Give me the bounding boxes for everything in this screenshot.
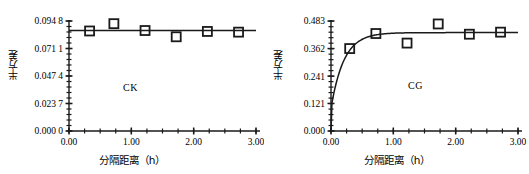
data-point-marker — [403, 39, 412, 48]
y-tick-label: 0.000 — [304, 126, 326, 136]
data-point-marker — [234, 28, 243, 37]
y-tick-label: 0.000 0 — [35, 126, 64, 136]
x-axis-title-cg: 分隔距离（h） — [265, 152, 529, 167]
y-tick-label: 0.483 — [304, 16, 326, 26]
x-tick-label: 2.00 — [447, 137, 464, 147]
data-point-marker — [172, 32, 181, 41]
y-tick-label: 0.047 4 — [35, 71, 64, 81]
chart-panel-ck: 0.000 00.023 70.047 40.071 10.094 80.001… — [0, 0, 264, 174]
series-annotation-cg: CG — [408, 80, 423, 91]
x-tick-label: 0.00 — [323, 137, 340, 147]
y-axis-title-cg: 半方差 — [273, 50, 287, 80]
data-point-marker — [371, 29, 380, 38]
data-point-marker — [465, 30, 474, 39]
x-tick-label: 0.00 — [61, 137, 78, 147]
y-axis-title-ck: 半方差 — [8, 50, 22, 80]
y-tick-label: 0.362 — [304, 44, 326, 54]
y-tick-label: 0.023 7 — [35, 99, 64, 109]
series-annotation-ck: CK — [123, 82, 138, 93]
x-tick-label: 3.00 — [248, 137, 264, 147]
y-tick-label: 0.094 8 — [35, 16, 64, 26]
x-tick-label: 3.00 — [510, 137, 527, 147]
x-axis-title-ck: 分隔距离（h） — [0, 152, 264, 167]
x-tick-label: 1.00 — [385, 137, 402, 147]
y-tick-label: 0.121 — [304, 99, 326, 109]
data-point-marker — [434, 19, 443, 28]
x-tick-label: 1.00 — [123, 137, 140, 147]
figure-container: 0.000 00.023 70.047 40.071 10.094 80.001… — [0, 0, 529, 174]
chart-panel-cg: 0.0000.1210.2410.3620.4830.001.002.003.0… — [265, 0, 529, 174]
y-tick-label: 0.241 — [304, 72, 326, 82]
data-point-marker — [109, 19, 118, 28]
data-point-marker — [203, 27, 212, 36]
plot-area-cg: 0.0000.1210.2410.3620.4830.001.002.003.0… — [265, 0, 529, 174]
y-tick-label: 0.071 1 — [35, 44, 64, 54]
x-tick-label: 2.00 — [185, 137, 202, 147]
